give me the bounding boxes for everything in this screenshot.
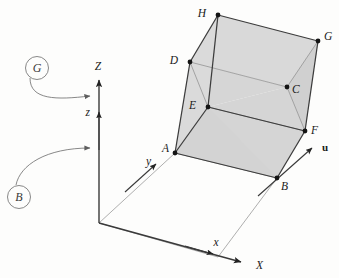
vertex-dot-C	[285, 85, 290, 90]
axis-x-line	[185, 246, 213, 254]
vertex-label-B: B	[281, 180, 288, 192]
vertex-dot-E	[206, 105, 211, 110]
axis-label-Z: Z	[95, 60, 102, 72]
callout-label-B: B	[15, 190, 23, 204]
vertex-label-E: E	[188, 99, 196, 111]
vertex-label-F: F	[310, 124, 319, 136]
vertex-dot-B	[275, 176, 280, 181]
callout-label-G: G	[33, 61, 42, 75]
vertex-label-H: H	[197, 7, 207, 19]
axis-label-x: x	[212, 236, 219, 248]
vertex-label-G: G	[324, 30, 333, 42]
figure-root: H G D C E F A B Z X z y x u G B	[0, 0, 339, 278]
callout-curves	[16, 78, 90, 185]
vertex-dot-A	[173, 151, 178, 156]
vector-label-u: u	[322, 141, 328, 153]
callout-circles	[8, 57, 49, 209]
vertex-label-C: C	[292, 83, 300, 95]
vertex-dot-F	[303, 129, 308, 134]
vertex-dot-H	[216, 13, 221, 18]
axis-y-line	[125, 164, 156, 192]
callout-labels: G B	[15, 61, 41, 204]
callout-curve-G	[30, 78, 90, 98]
diagram-canvas: H G D C E F A B Z X z y x u G B	[0, 0, 339, 278]
vertex-dot-G	[316, 39, 321, 44]
vertex-label-A: A	[161, 142, 170, 154]
axis-X-line	[99, 223, 241, 262]
axis-label-X: X	[255, 259, 264, 271]
axis-label-y: y	[145, 155, 152, 168]
vertex-label-D: D	[169, 54, 179, 66]
cube-faces	[175, 15, 318, 178]
axis-label-z: z	[85, 106, 91, 118]
vertex-dot-D	[188, 60, 193, 65]
callout-curve-B	[16, 148, 90, 185]
